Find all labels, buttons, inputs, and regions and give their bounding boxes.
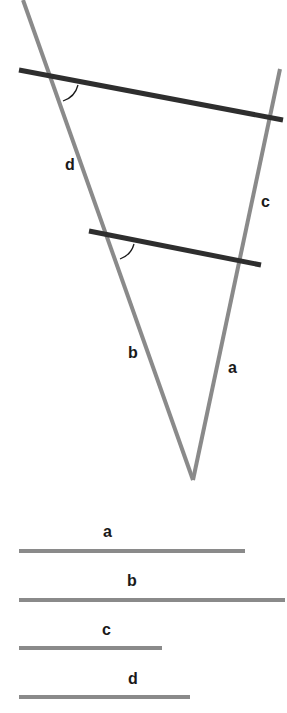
side-label-c: c	[261, 193, 270, 210]
side-label-a: a	[228, 359, 237, 376]
left-transversal-line	[23, 0, 193, 480]
segment-label-d: d	[128, 670, 138, 687]
intercept-theorem-diagram: d c b a a b c d	[0, 0, 287, 713]
segment-label-b: b	[127, 572, 137, 589]
segment-label-a: a	[103, 523, 112, 540]
side-label-d: d	[65, 156, 75, 173]
lower-angle-arc	[120, 244, 134, 259]
side-label-b: b	[128, 344, 138, 361]
upper-angle-arc	[63, 85, 78, 101]
right-transversal-line	[193, 69, 280, 480]
segment-label-c: c	[102, 621, 111, 638]
